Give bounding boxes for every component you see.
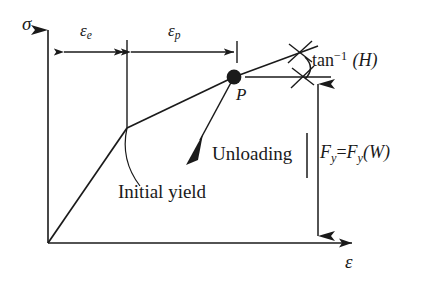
tan-function-name: tan — [312, 50, 334, 70]
elastic-strain-label: εe — [80, 22, 92, 42]
initial-yield-leader-line — [125, 128, 140, 186]
fy-symbol: F — [320, 142, 331, 162]
yield-force-label: Fy=Fy(W) — [320, 143, 390, 164]
strain-axis-label: ε — [345, 252, 353, 271]
plastic-strain-symbol: ε — [168, 21, 175, 40]
fy-argument: (W) — [363, 142, 390, 162]
elastic-strain-symbol: ε — [80, 21, 87, 40]
plastic-hardening-branch — [127, 77, 234, 128]
plastic-strain-subscript: p — [175, 29, 181, 42]
elastic-branch — [48, 128, 127, 243]
plastic-strain-label: εp — [168, 22, 180, 42]
stress-axis-label: σ — [22, 14, 31, 33]
angle-arc-group — [288, 41, 314, 88]
unloading-line — [200, 77, 234, 140]
tan-argument: (H) — [353, 50, 378, 70]
tangent-extension — [234, 46, 318, 77]
stress-strain-figure: σ ε εe εp P tan−1 (H) Unloading Initial … — [0, 0, 446, 283]
elastic-strain-subscript: e — [87, 29, 92, 42]
unloading-label: Unloading — [212, 144, 292, 163]
initial-yield-label: Initial yield — [118, 182, 206, 201]
tan-exponent: −1 — [334, 49, 347, 63]
tangent-modulus-label: tan−1 (H) — [312, 50, 378, 69]
fy-symbol-2: F — [347, 142, 358, 162]
arc-tick-upper — [288, 41, 312, 63]
point-p-marker — [227, 70, 242, 85]
point-p-label: P — [236, 86, 246, 103]
fy-equals: = — [336, 142, 346, 162]
